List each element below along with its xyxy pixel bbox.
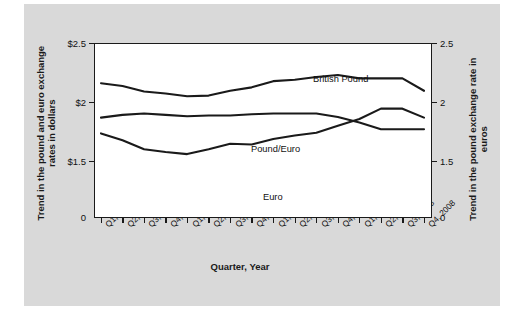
line-british-pound xyxy=(101,75,424,96)
page-margin-left xyxy=(0,0,24,312)
x-axis-title: Quarter, Year xyxy=(155,261,325,272)
y-axis-left-title: Trend in the pound and euro exchange rat… xyxy=(35,43,57,223)
x-axis-tickmark xyxy=(251,218,252,223)
x-axis-tickmark xyxy=(165,218,166,223)
y-right-tickmark-1-5 xyxy=(432,161,437,162)
y-axis-right-title: Trend in the pound exchange rate in euro… xyxy=(467,49,489,229)
y-left-tick-0: 0 xyxy=(46,212,86,223)
series-label-pound-euro: Pound/Euro xyxy=(251,144,300,154)
x-axis-tickmark xyxy=(402,218,403,223)
page-margin-top xyxy=(0,0,506,4)
x-axis-tickmark xyxy=(273,218,274,223)
series-label-british-pound: British Pound xyxy=(313,74,368,84)
page-margin-bottom xyxy=(0,306,506,312)
x-axis-tickmark xyxy=(338,218,339,223)
x-axis-tickmark xyxy=(316,218,317,223)
y-left-tick-2: $2 xyxy=(46,97,86,108)
y-left-tick-2-5: $2.5 xyxy=(46,38,86,49)
y-right-tick-1-5: 1.5 xyxy=(440,156,480,167)
x-axis-tickmark xyxy=(230,218,231,223)
x-axis-tickmark xyxy=(101,218,102,223)
line-pound-euro xyxy=(101,113,424,129)
y-right-tick-2: 2 xyxy=(440,97,480,108)
series-lines xyxy=(95,44,430,216)
x-axis-tickmark xyxy=(187,218,188,223)
y-left-tick-1-5: $1.5 xyxy=(46,156,86,167)
chart-figure: Trend in the pound and euro exchange rat… xyxy=(0,0,506,312)
x-axis-tickmark xyxy=(144,218,145,223)
y-right-tickmark-2-5 xyxy=(432,43,437,44)
y-right-tick-2-5: 2.5 xyxy=(440,38,480,49)
x-axis-tickmark xyxy=(424,218,425,223)
x-axis-tickmark xyxy=(208,218,209,223)
x-axis-tickmark xyxy=(122,218,123,223)
x-axis-tickmark xyxy=(359,218,360,223)
page-margin-right xyxy=(500,0,506,312)
x-axis-tickmark xyxy=(381,218,382,223)
series-label-euro: Euro xyxy=(263,192,283,202)
x-axis-tickmark xyxy=(295,218,296,223)
y-right-tickmark-2 xyxy=(432,102,437,103)
